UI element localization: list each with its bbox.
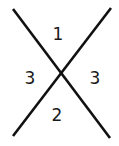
label-bottom: 2 — [52, 105, 63, 125]
label-top: 1 — [53, 24, 64, 44]
label-right: 3 — [90, 68, 101, 88]
crossing-lines-diagram: 1 3 3 2 — [0, 0, 119, 146]
label-left: 3 — [25, 68, 36, 88]
